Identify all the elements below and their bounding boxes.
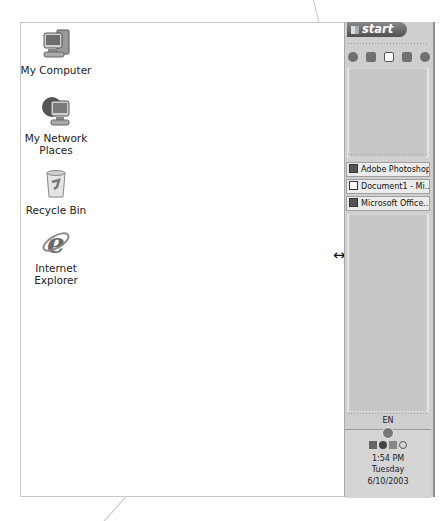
task-button-photoshop[interactable]: Adobe Photoshop — [346, 162, 430, 177]
display-icon[interactable] — [369, 441, 377, 449]
tray-icons — [345, 441, 431, 449]
desktop-icon-label: Recycle Bin — [16, 204, 96, 216]
shield-icon[interactable] — [399, 441, 407, 449]
task-area-pane — [347, 214, 429, 412]
task-label: Microsoft Office... — [361, 199, 430, 208]
tray-expand-icon[interactable] — [382, 427, 394, 439]
network-places-icon — [39, 95, 73, 129]
toolbar-grip-2[interactable] — [347, 153, 429, 157]
recycle-bin-icon — [39, 167, 73, 201]
desktop-icon-my-computer[interactable]: My Computer — [16, 27, 96, 76]
desktop-icon-label-2: Explorer — [16, 274, 96, 286]
media-player-icon[interactable] — [420, 52, 430, 62]
show-desktop-icon[interactable] — [366, 52, 376, 62]
explorer-icon[interactable] — [402, 52, 412, 62]
taskbar[interactable]: start Adobe Photoshop Document1 - Mi... … — [344, 22, 435, 497]
clock-time[interactable]: 1:54 PM — [345, 453, 431, 464]
desktop-icon-network-places[interactable]: My Network Places — [16, 95, 96, 156]
language-indicator[interactable]: EN — [345, 416, 431, 426]
desktop-icon-label: My Network — [16, 132, 96, 144]
clock-day: Tuesday — [345, 464, 431, 476]
start-label: start — [362, 22, 393, 36]
network-globe-icon[interactable] — [379, 441, 387, 449]
task-label: Document1 - Mi... — [361, 182, 430, 191]
desktop-icon-label: Internet — [16, 262, 96, 274]
my-computer-icon — [39, 27, 73, 61]
window-icon[interactable] — [384, 52, 394, 62]
ie-icon[interactable] — [348, 52, 358, 62]
desktop-icon-label-2: Places — [16, 144, 96, 156]
quick-launch-pane — [347, 68, 429, 158]
desktop-icon-label: My Computer — [16, 64, 96, 76]
internet-explorer-icon: e — [39, 225, 73, 259]
clock-date: 6/10/2003 — [345, 476, 431, 488]
quick-launch — [348, 52, 430, 64]
task-label: Adobe Photoshop — [361, 165, 430, 174]
desktop-icon-recycle-bin[interactable]: Recycle Bin — [16, 167, 96, 216]
word-icon — [349, 181, 358, 190]
task-button-office[interactable]: Microsoft Office... — [346, 196, 430, 211]
desktop-icon-internet-explorer[interactable]: e Internet Explorer — [16, 225, 96, 286]
system-tray: EN 1:54 PM Tuesday 6/10/2003 — [345, 429, 431, 498]
svg-text:e: e — [47, 227, 65, 259]
windows-flag-icon — [351, 26, 359, 34]
desktop[interactable]: My Computer My Network Places Recycle Bi… — [20, 22, 346, 497]
toolbar-grip[interactable] — [347, 42, 429, 46]
office-icon — [349, 198, 358, 207]
photoshop-icon — [349, 164, 358, 173]
task-button-word[interactable]: Document1 - Mi... — [346, 179, 430, 194]
start-button[interactable]: start — [347, 22, 407, 37]
messenger-icon[interactable] — [389, 441, 397, 449]
